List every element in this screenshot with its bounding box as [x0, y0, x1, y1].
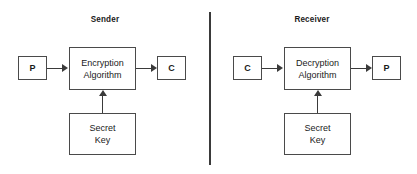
- receiver-ciphertext-label: C: [244, 63, 251, 73]
- receiver-secret-key-label-line2: Key: [304, 134, 330, 146]
- receiver-secret-key-label-line1: Secret: [304, 122, 330, 134]
- sender-secret-key-box: Secret Key: [69, 113, 136, 155]
- receiver-secret-key-box: Secret Key: [284, 113, 351, 155]
- sender-key-arrow-line: [102, 96, 103, 113]
- sender-encryption-algorithm-label: Encryption Algorithm: [81, 57, 124, 81]
- receiver-input-arrow-line: [262, 68, 278, 69]
- sender-panel-title: Sender: [78, 14, 132, 24]
- receiver-ciphertext-box: C: [233, 56, 262, 80]
- sender-plaintext-box: P: [18, 56, 47, 80]
- receiver-plaintext-label: P: [383, 63, 389, 73]
- diagram-canvas: Sender P Encryption Algorithm C Secret K…: [0, 0, 417, 174]
- sender-ciphertext-label: C: [168, 63, 175, 73]
- sender-key-arrow-head: [99, 90, 107, 96]
- receiver-decryption-algorithm-label-line1: Decryption: [296, 57, 339, 69]
- receiver-input-arrow-head: [277, 64, 283, 72]
- receiver-output-arrow-line: [351, 68, 367, 69]
- receiver-key-arrow-head: [314, 90, 322, 96]
- receiver-secret-key-label: Secret Key: [304, 122, 330, 146]
- receiver-decryption-algorithm-label-line2: Algorithm: [296, 69, 339, 81]
- sender-input-arrow-head: [62, 64, 68, 72]
- receiver-decryption-algorithm-label: Decryption Algorithm: [296, 57, 339, 81]
- receiver-key-arrow-line: [317, 96, 318, 113]
- sender-encryption-algorithm-label-line1: Encryption: [81, 57, 124, 69]
- sender-secret-key-label-line2: Key: [89, 134, 115, 146]
- sender-encryption-algorithm-box: Encryption Algorithm: [69, 47, 136, 90]
- sender-input-arrow-line: [47, 68, 63, 69]
- sender-ciphertext-box: C: [157, 56, 186, 80]
- sender-secret-key-label: Secret Key: [89, 122, 115, 146]
- receiver-plaintext-box: P: [372, 56, 401, 80]
- sender-plaintext-label: P: [29, 63, 35, 73]
- receiver-decryption-algorithm-box: Decryption Algorithm: [284, 47, 351, 90]
- sender-encryption-algorithm-label-line2: Algorithm: [81, 69, 124, 81]
- sender-output-arrow-line: [136, 68, 152, 69]
- receiver-panel-title: Receiver: [285, 14, 339, 24]
- sender-secret-key-label-line1: Secret: [89, 122, 115, 134]
- vertical-divider: [209, 12, 211, 165]
